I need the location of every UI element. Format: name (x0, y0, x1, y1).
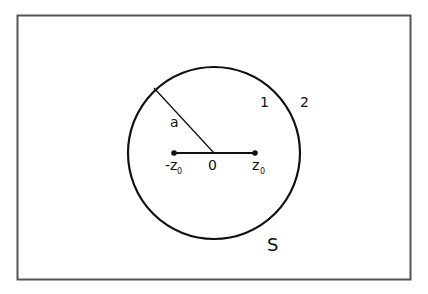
region-2-label: 2 (300, 94, 309, 110)
pos-point-dot (252, 150, 258, 156)
pos-point-subscript: 0 (260, 167, 265, 176)
neg-point-subscript: 0 (177, 167, 182, 176)
diagram-canvas: a 1 2 0 -z 0 z 0 S (0, 0, 428, 294)
surface-label: S (267, 234, 278, 255)
radius-line (154, 88, 214, 153)
region-1-label: 1 (260, 94, 269, 110)
pos-point-label: z (252, 157, 259, 173)
origin-label: 0 (208, 157, 217, 173)
neg-point-dot (171, 150, 177, 156)
neg-point-label: -z (165, 157, 177, 173)
radius-label: a (170, 114, 179, 130)
